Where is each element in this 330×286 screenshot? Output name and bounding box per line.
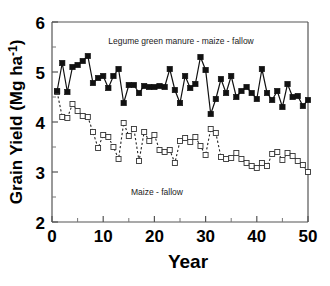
data-point-marker	[239, 88, 244, 93]
data-point-marker	[70, 64, 75, 69]
data-point-marker	[280, 158, 285, 163]
data-point-marker	[213, 131, 218, 136]
data-point-marker	[60, 115, 65, 120]
y-tick-label-2: 2	[36, 214, 45, 233]
data-point-marker	[249, 90, 254, 95]
data-point-marker	[121, 100, 126, 105]
y-tick-label-3: 3	[36, 164, 45, 183]
data-point-marker	[60, 60, 65, 65]
data-point-marker	[234, 151, 239, 156]
data-point-marker	[259, 161, 264, 166]
data-point-marker	[90, 130, 95, 135]
x-axis-title: Year	[168, 251, 209, 272]
data-point-marker	[111, 73, 116, 78]
data-point-marker	[157, 83, 162, 88]
data-point-marker	[147, 84, 152, 89]
data-point-marker	[269, 97, 274, 102]
data-point-marker	[183, 136, 188, 141]
data-point-marker	[177, 100, 182, 105]
data-point-marker	[249, 164, 254, 169]
data-point-marker	[116, 66, 121, 71]
data-point-marker	[136, 90, 141, 95]
x-tick-label-40: 40	[247, 227, 266, 246]
x-tick-label-20: 20	[145, 227, 164, 246]
data-point-marker	[275, 150, 280, 155]
data-point-marker	[101, 133, 106, 138]
data-point-marker	[254, 96, 259, 101]
data-point-marker	[152, 84, 157, 89]
data-point-marker	[65, 89, 70, 94]
series-legume-green-manure	[54, 53, 310, 116]
y-tick-label-6: 6	[36, 14, 45, 33]
data-point-marker	[218, 76, 223, 81]
series-label-maize-fallow: Maize - fallow	[131, 187, 184, 197]
data-point-marker	[208, 127, 213, 132]
svg-text:Grain Yield (Mg ha-1): Grain Yield (Mg ha-1)	[6, 40, 26, 205]
data-point-marker	[106, 85, 111, 90]
data-point-marker	[254, 166, 259, 171]
y-tick-label-4: 4	[36, 114, 46, 133]
y-tick-label-5: 5	[36, 64, 45, 83]
data-point-marker	[244, 84, 249, 89]
data-point-marker	[239, 157, 244, 162]
data-point-marker	[188, 85, 193, 90]
data-point-marker	[244, 161, 249, 166]
data-point-marker	[188, 140, 193, 145]
data-point-marker	[295, 159, 300, 164]
data-point-marker	[172, 87, 177, 92]
data-point-marker	[126, 134, 131, 139]
data-point-marker	[90, 80, 95, 85]
data-point-marker	[295, 93, 300, 98]
data-point-marker	[157, 148, 162, 153]
data-point-marker	[229, 156, 234, 161]
data-point-marker	[259, 66, 264, 71]
data-point-marker	[167, 148, 172, 153]
data-point-marker	[142, 130, 147, 135]
data-point-marker	[131, 127, 136, 132]
data-point-marker	[131, 82, 136, 87]
data-point-marker	[264, 90, 269, 95]
x-axis-ticks	[52, 216, 308, 222]
y-axis-title-exponent: -1	[6, 45, 20, 56]
data-point-marker	[275, 88, 280, 93]
data-point-marker	[290, 94, 295, 99]
data-point-marker	[305, 97, 310, 102]
y-axis-ticks	[52, 22, 58, 222]
x-tick-label-50: 50	[299, 227, 318, 246]
data-point-marker	[75, 109, 80, 114]
data-point-marker	[306, 170, 311, 175]
data-point-marker	[172, 161, 177, 166]
data-point-marker	[223, 90, 228, 95]
data-point-marker	[126, 82, 131, 87]
data-point-marker	[147, 139, 152, 144]
data-point-marker	[85, 115, 90, 120]
data-point-marker	[96, 146, 101, 151]
y-axis-title: Grain Yield (Mg ha-1)	[6, 40, 26, 205]
data-point-marker	[285, 81, 290, 86]
data-point-marker	[167, 66, 172, 71]
data-point-marker	[162, 150, 167, 155]
data-point-marker	[182, 73, 187, 78]
data-point-marker	[111, 145, 116, 150]
data-point-marker	[121, 121, 126, 126]
data-point-marker	[213, 96, 218, 101]
data-point-marker	[198, 144, 203, 149]
data-point-marker	[224, 157, 229, 162]
grain-yield-line-chart: 2 3 4 5 6 0 10 20 30 40 50 Year Grain Yi…	[0, 0, 330, 286]
data-point-marker	[106, 135, 111, 140]
data-point-marker	[54, 88, 59, 93]
data-point-marker	[198, 54, 203, 59]
x-tick-label-30: 30	[196, 227, 215, 246]
data-point-marker	[116, 157, 121, 162]
data-point-marker	[152, 133, 157, 138]
y-axis-title-close: )	[7, 40, 26, 46]
data-point-marker	[300, 103, 305, 108]
data-point-marker	[80, 58, 85, 63]
series-label-legume-green-manure: Legume green manure - maize - fallow	[108, 36, 254, 46]
data-point-marker	[85, 53, 90, 58]
x-tick-label-10: 10	[94, 227, 113, 246]
data-point-marker	[280, 104, 285, 109]
data-point-marker	[218, 155, 223, 160]
data-point-marker	[162, 84, 167, 89]
chart-figure: 2 3 4 5 6 0 10 20 30 40 50 Year Grain Yi…	[0, 0, 330, 286]
